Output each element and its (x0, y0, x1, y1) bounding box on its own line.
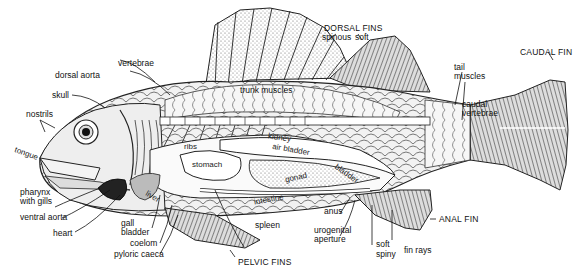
label-dorsal-aorta: dorsal aorta (55, 71, 100, 80)
label-vertebrae: vertebrae (118, 59, 154, 68)
label-caudal-fin: CAUDAL FIN (520, 48, 572, 57)
label-fin-soft: soft (376, 240, 390, 249)
label-skull: skull (52, 91, 69, 100)
vertebral-column (160, 117, 430, 125)
label-nostrils: nostrils (26, 110, 53, 119)
label-gall-bladder: gall bladder (121, 219, 149, 237)
label-trunk-muscles: trunk muscles (240, 86, 292, 95)
label-spinous: spinous (322, 33, 351, 42)
label-coelom: coelom (130, 239, 157, 248)
caudal-fin (470, 80, 568, 190)
label-anus: anus (324, 207, 342, 216)
label-stomach: stomach (192, 161, 222, 169)
label-caudal-vertebrae: caudal vertebrae (462, 100, 498, 118)
label-pharynx-with-gills: pharynx with gills (20, 188, 52, 206)
label-heart: heart (53, 229, 72, 238)
label-anal-fin: ANAL FIN (439, 215, 479, 224)
label-fin-rays: fin rays (404, 246, 431, 255)
label-fin-spiny: spiny (376, 250, 396, 259)
label-soft: soft (355, 33, 369, 42)
label-ventral-aorta: ventral aorta (20, 213, 67, 222)
label-pyloric-caeca: pyloric caeca (114, 250, 164, 259)
label-ribs: ribs (184, 143, 197, 151)
label-tail-muscles: tail muscles (454, 63, 485, 81)
label-spleen: spleen (255, 221, 280, 230)
soft-dorsal-fin (330, 36, 430, 92)
label-pelvic-fins: PELVIC FINS (238, 258, 292, 267)
anal-fin (355, 190, 432, 230)
label-urogenital-aperture: urogenital aperture (314, 226, 351, 244)
